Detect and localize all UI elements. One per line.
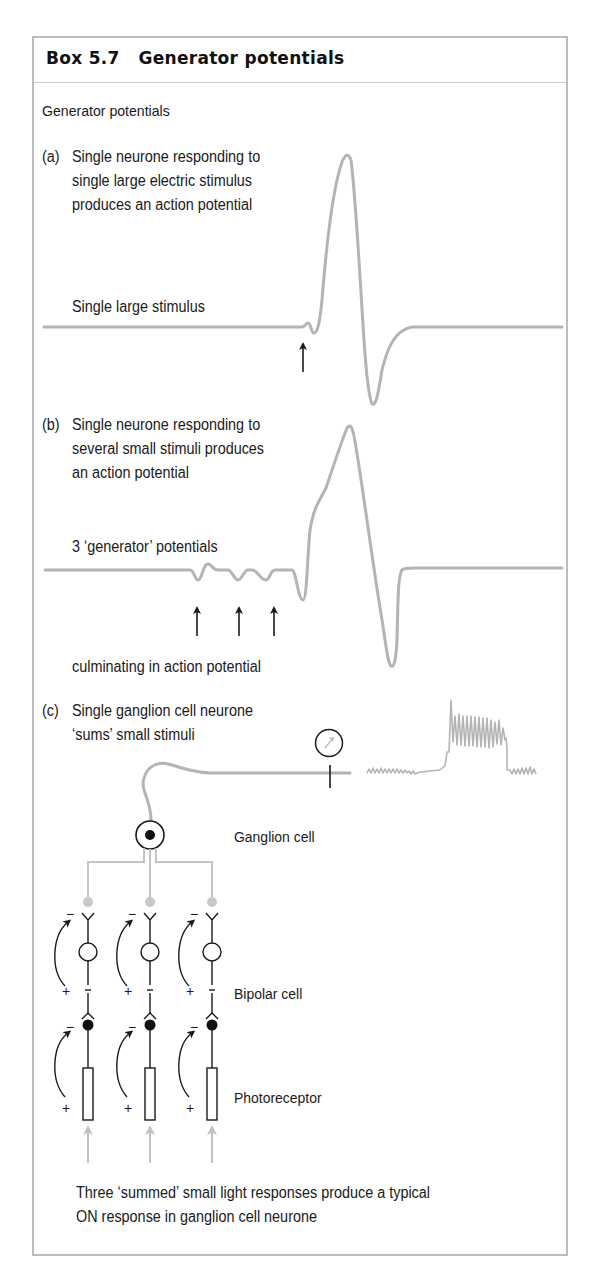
sign-plus-c2-photo: + [124, 1097, 132, 1119]
panel-b-trace [45, 426, 562, 666]
sign-minus-c1-bottom: − [66, 1016, 74, 1038]
sign-minus-c2-bottom: − [128, 1016, 136, 1038]
cell-column-1 [55, 913, 97, 1120]
sign-plus-c1-photo: + [62, 1097, 70, 1119]
cell-column-2 [117, 913, 159, 1120]
ganglion-axon [143, 763, 350, 820]
ganglion-dendrites [88, 848, 212, 898]
recording-meter-icon [316, 730, 343, 757]
sign-plus-c3-bipolar: + [186, 980, 194, 1002]
sign-plus-c3-photo: + [186, 1097, 194, 1119]
sign-plus-c2-bipolar: + [124, 980, 132, 1002]
on-response-trace [367, 700, 536, 774]
sign-minus-c3-bottom: − [190, 1016, 198, 1038]
sign-plus-c1-bipolar: + [62, 980, 70, 1002]
sign-minus-c2-top: − [128, 903, 136, 925]
cell-column-3 [179, 913, 221, 1120]
ganglion-cell-icon [136, 821, 164, 849]
sign-minus-c3-top: − [190, 903, 198, 925]
diagram-graphics [0, 0, 605, 1275]
synapse-dot-1 [83, 897, 93, 907]
synapse-dot-2 [145, 897, 155, 907]
synapse-dot-3 [207, 897, 217, 907]
sign-minus-c1-top: − [66, 903, 74, 925]
